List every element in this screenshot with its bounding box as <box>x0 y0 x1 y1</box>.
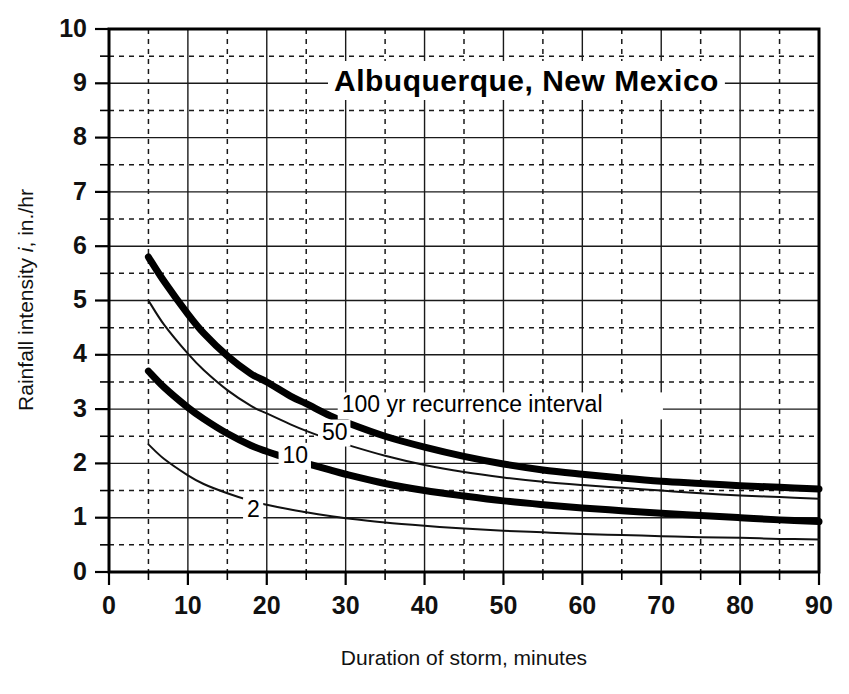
idf-chart-svg: 0123456789100102030405060708090 100 yr r… <box>0 0 849 694</box>
curve-label-2-yr: 2 <box>247 496 260 522</box>
curve-label-100-yr: 100 yr recurrence interval <box>342 391 603 417</box>
y-tick-label: 6 <box>73 231 87 259</box>
x-tick-label: 90 <box>805 591 833 619</box>
x-tick-label: 40 <box>411 591 439 619</box>
axis-tickmarks <box>95 29 819 585</box>
y-tick-label: 5 <box>73 285 87 313</box>
curve-label-50-yr: 50 <box>322 419 348 445</box>
y-tick-label: 2 <box>73 448 87 476</box>
curve-100-yr <box>148 257 819 489</box>
y-tick-label: 8 <box>73 122 87 150</box>
y-tick-label: 0 <box>73 557 87 585</box>
y-axis-title: Rainfall intensity i, in./hr <box>14 189 37 411</box>
x-tick-label: 0 <box>102 591 116 619</box>
axis-tick-labels: 0123456789100102030405060708090 <box>59 14 833 620</box>
x-tick-label: 10 <box>174 591 202 619</box>
x-tick-label: 60 <box>568 591 596 619</box>
y-tick-label: 4 <box>73 339 87 367</box>
chart-title: Albuquerque, New Mexico <box>334 64 719 97</box>
curve-label-10-yr: 10 <box>283 442 309 468</box>
y-tick-label: 1 <box>73 502 87 530</box>
x-tick-label: 70 <box>647 591 675 619</box>
x-tick-label: 80 <box>726 591 754 619</box>
x-axis-title: Duration of storm, minutes <box>341 646 587 669</box>
y-tick-label: 9 <box>73 68 87 96</box>
x-tick-label: 50 <box>490 591 518 619</box>
y-tick-label: 3 <box>73 394 87 422</box>
x-tick-label: 30 <box>332 591 360 619</box>
y-tick-label: 10 <box>59 14 87 42</box>
chart-container: 0123456789100102030405060708090 100 yr r… <box>0 0 849 694</box>
y-tick-label: 7 <box>73 177 87 205</box>
x-tick-label: 20 <box>253 591 281 619</box>
